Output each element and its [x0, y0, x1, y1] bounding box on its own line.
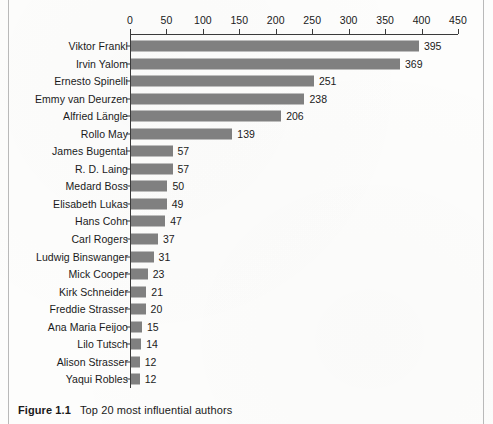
- bar-value-label: 21: [151, 286, 163, 298]
- category-label: Lilo Tutsch: [77, 338, 128, 350]
- figure-page: 050100150200250300350400450 Viktor Frank…: [0, 0, 493, 424]
- bar: [131, 76, 314, 87]
- x-tick-mark: [349, 29, 350, 34]
- x-tick-mark: [458, 29, 459, 34]
- x-tick-label: 300: [340, 14, 358, 26]
- bar: [131, 321, 142, 332]
- x-tick-label: 0: [127, 14, 133, 26]
- category-label: Emmy van Deurzen: [35, 93, 128, 105]
- bar-row: Ana Maria Feijoo15: [0, 318, 493, 336]
- bar-value-label: 369: [405, 58, 423, 70]
- bar-value-label: 139: [237, 128, 255, 140]
- y-tick-mark: [126, 344, 130, 345]
- figure-number: Figure 1.1: [18, 404, 71, 416]
- bar: [131, 251, 154, 262]
- bar-value-label: 57: [178, 163, 190, 175]
- bar-row: Carl Rogers37: [0, 230, 493, 248]
- y-tick-mark: [126, 168, 130, 169]
- y-tick-mark: [126, 291, 130, 292]
- y-tick-mark: [126, 274, 130, 275]
- y-tick-mark: [126, 133, 130, 134]
- category-label: Viktor Frankl: [69, 40, 128, 52]
- bar-value-label: 206: [286, 110, 304, 122]
- y-tick-mark: [126, 45, 130, 46]
- category-label: Ernesto Spinelli: [54, 75, 128, 87]
- bar-value-label: 31: [159, 251, 171, 263]
- category-label: Hans Cohn: [75, 215, 128, 227]
- y-tick-mark: [126, 98, 130, 99]
- x-tick-mark: [166, 29, 167, 34]
- y-tick-mark: [126, 361, 130, 362]
- category-label: Alfried Längle: [63, 110, 128, 122]
- y-tick-mark: [126, 203, 130, 204]
- category-label: Carl Rogers: [71, 233, 128, 245]
- bar-row: Mick Cooper23: [0, 265, 493, 283]
- bar-row: Yaqui Robles12: [0, 371, 493, 389]
- bar-value-label: 238: [309, 93, 327, 105]
- x-tick-mark: [312, 29, 313, 34]
- x-tick-mark: [385, 29, 386, 34]
- y-tick-mark: [126, 309, 130, 310]
- category-label: Rollo May: [81, 128, 128, 140]
- bar: [131, 128, 232, 139]
- category-label: R. D. Laing: [75, 163, 128, 175]
- category-label: Medard Boss: [66, 180, 128, 192]
- category-label: Ludwig Binswanger: [36, 251, 128, 263]
- bar-row: Kirk Schneider21: [0, 283, 493, 301]
- y-tick-mark: [126, 379, 130, 380]
- bar-row: Alfried Längle206: [0, 107, 493, 125]
- y-tick-mark: [126, 221, 130, 222]
- category-label: Ana Maria Feijoo: [48, 321, 128, 333]
- category-label: Irvin Yalom: [76, 58, 128, 70]
- bar-row: Ernesto Spinelli251: [0, 72, 493, 90]
- bar-row: R. D. Laing57: [0, 160, 493, 178]
- bar: [131, 111, 281, 122]
- bar-value-label: 14: [146, 338, 158, 350]
- bar-value-label: 395: [424, 40, 442, 52]
- bar: [131, 286, 146, 297]
- bar: [131, 146, 173, 157]
- bar: [131, 181, 167, 192]
- x-tick-label: 350: [376, 14, 394, 26]
- y-tick-mark: [126, 63, 130, 64]
- bar: [131, 58, 400, 69]
- x-tick-mark: [276, 29, 277, 34]
- bar-chart: 050100150200250300350400450 Viktor Frank…: [0, 0, 493, 396]
- y-tick-mark: [126, 81, 130, 82]
- y-tick-mark: [126, 186, 130, 187]
- bar-row: Emmy van Deurzen238: [0, 90, 493, 108]
- bar: [131, 198, 167, 209]
- y-tick-mark: [126, 326, 130, 327]
- category-label: Freddie Strasser: [50, 303, 128, 315]
- bar-row: James Bugental57: [0, 143, 493, 161]
- category-label: Elisabeth Lukas: [53, 198, 128, 210]
- x-tick-label: 400: [413, 14, 431, 26]
- bar: [131, 93, 304, 104]
- bar-value-label: 49: [172, 198, 184, 210]
- bar-value-label: 12: [145, 356, 157, 368]
- x-tick-mark: [130, 29, 131, 34]
- category-label: Mick Cooper: [69, 268, 128, 280]
- bar-row: Viktor Frankl395: [0, 37, 493, 55]
- bar-value-label: 12: [145, 373, 157, 385]
- bar-value-label: 23: [153, 268, 165, 280]
- figure-caption: Figure 1.1Top 20 most influential author…: [18, 404, 232, 416]
- x-tick-label: 150: [230, 14, 248, 26]
- bar-value-label: 57: [178, 145, 190, 157]
- bar: [131, 163, 173, 174]
- bar-row: Ludwig Binswanger31: [0, 248, 493, 266]
- category-label: Alison Strasser: [57, 356, 128, 368]
- bar: [131, 234, 158, 245]
- x-tick-mark: [422, 29, 423, 34]
- x-tick-label: 50: [160, 14, 172, 26]
- bar-value-label: 15: [147, 321, 159, 333]
- x-axis-line: [130, 34, 458, 35]
- bar-value-label: 47: [170, 215, 182, 227]
- x-tick-label: 200: [267, 14, 285, 26]
- x-tick-label: 100: [194, 14, 212, 26]
- bar: [131, 40, 419, 51]
- x-tick-mark: [239, 29, 240, 34]
- y-tick-mark: [126, 239, 130, 240]
- category-label: Yaqui Robles: [66, 373, 128, 385]
- bar-row: Alison Strasser12: [0, 353, 493, 371]
